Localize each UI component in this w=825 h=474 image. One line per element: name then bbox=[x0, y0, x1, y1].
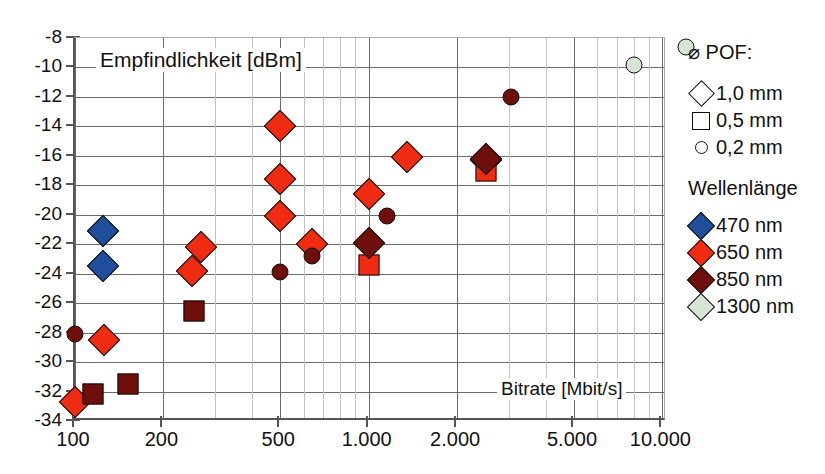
data-point-850nm-square bbox=[82, 384, 103, 405]
data-point-850nm-square bbox=[118, 374, 139, 395]
legend-wavelength-row: 850 nm bbox=[686, 266, 825, 293]
diamond-filled-icon bbox=[686, 270, 716, 290]
data-point-650nm-diamond bbox=[88, 324, 121, 357]
data-point-850nm-circle bbox=[67, 326, 84, 343]
gridline-vertical bbox=[252, 38, 253, 418]
chart-root: -8-10-12-14-16-18-20-22-24-26-28-30-32-3… bbox=[0, 0, 825, 474]
x-tick-label: 200 bbox=[116, 429, 206, 449]
data-point-1300nm-circle bbox=[625, 56, 642, 73]
data-point-850nm-circle bbox=[502, 88, 519, 105]
legend-wavelength-label: 1300 nm bbox=[716, 295, 794, 318]
data-point-650nm-diamond bbox=[391, 141, 424, 174]
x-tick-mark bbox=[277, 416, 279, 427]
data-point-470nm-diamond bbox=[87, 250, 120, 283]
data-point-850nm-circle bbox=[303, 248, 320, 265]
gridline-vertical bbox=[323, 38, 324, 418]
y-tick-label: -22 bbox=[0, 233, 62, 252]
x-tick-label: 2.000 bbox=[410, 429, 500, 449]
diamond-filled-icon bbox=[686, 216, 716, 236]
y-tick-label: -12 bbox=[0, 86, 62, 105]
legend-wavelength-label: 470 nm bbox=[716, 214, 783, 237]
x-tick-mark bbox=[366, 416, 368, 427]
gridline-vertical bbox=[340, 38, 341, 418]
y-tick-label: -14 bbox=[0, 115, 62, 134]
legend-pof-row: 0,5 mm bbox=[686, 107, 825, 134]
x-tick-label: 5.000 bbox=[527, 429, 617, 449]
gridline-vertical bbox=[574, 38, 575, 418]
gridline-vertical bbox=[457, 38, 458, 418]
x-tick-mark bbox=[454, 416, 456, 427]
data-point-470nm-diamond bbox=[87, 215, 120, 248]
x-tick-label: 10.000 bbox=[615, 429, 705, 449]
y-tick-label: -18 bbox=[0, 174, 62, 193]
x-tick-label: 500 bbox=[233, 429, 323, 449]
square-outline-icon bbox=[686, 112, 716, 130]
gridline-vertical bbox=[662, 38, 663, 418]
legend-pof-label: 0,2 mm bbox=[716, 136, 783, 159]
legend-wavelength-row: 1300 nm bbox=[686, 293, 825, 320]
x-tick-label: 100 bbox=[28, 429, 118, 449]
y-tick-label: -28 bbox=[0, 322, 62, 341]
legend: ⌀ POF: 1,0 mm0,5 mm0,2 mm Wellenlänge 47… bbox=[686, 40, 825, 320]
y-tick-label: -32 bbox=[0, 381, 62, 400]
x-axis-title: Bitrate [Mbit/s] bbox=[497, 378, 626, 400]
plot-area bbox=[73, 37, 665, 420]
legend-pof-group: 1,0 mm0,5 mm0,2 mm bbox=[686, 80, 825, 161]
diamond-filled-icon bbox=[686, 297, 716, 317]
x-tick-mark bbox=[72, 416, 74, 427]
x-tick-label: 1.000 bbox=[322, 429, 412, 449]
x-tick-mark bbox=[160, 416, 162, 427]
legend-wavelength-row: 470 nm bbox=[686, 212, 825, 239]
x-tick-mark bbox=[571, 416, 573, 427]
data-point-650nm-diamond bbox=[352, 178, 385, 211]
legend-pof-row: 1,0 mm bbox=[686, 80, 825, 107]
y-tick-label: -20 bbox=[0, 204, 62, 223]
legend-pof-label: 1,0 mm bbox=[716, 82, 783, 105]
legend-wavelength-label: 850 nm bbox=[716, 268, 783, 291]
legend-wavelength-label: 650 nm bbox=[716, 241, 783, 264]
gridline-vertical bbox=[634, 38, 635, 418]
y-axis-title: Empfindlichkeit [dBm] bbox=[96, 48, 306, 72]
data-point-850nm-circle bbox=[272, 264, 289, 281]
y-tick-label: -10 bbox=[0, 56, 62, 75]
data-point-850nm-circle bbox=[378, 208, 395, 225]
diamond-outline-icon bbox=[686, 84, 716, 103]
circle-outline-icon bbox=[686, 141, 716, 154]
legend-wavelength-group: 470 nm650 nm850 nm1300 nm bbox=[686, 212, 825, 320]
gridline-vertical bbox=[304, 38, 305, 418]
y-tick-label: -30 bbox=[0, 351, 62, 370]
legend-wavelength-title: Wellenlänge bbox=[688, 177, 825, 200]
data-point-650nm-diamond bbox=[264, 110, 297, 143]
legend-pof-row: 0,2 mm bbox=[686, 134, 825, 161]
gridline-vertical bbox=[649, 38, 650, 418]
legend-wavelength-row: 650 nm bbox=[686, 239, 825, 266]
legend-pof-label: 0,5 mm bbox=[716, 109, 783, 132]
gridline-vertical bbox=[163, 38, 164, 418]
data-point-850nm-square bbox=[184, 300, 205, 321]
diamond-filled-icon bbox=[686, 243, 716, 263]
data-point-650nm-diamond bbox=[264, 200, 297, 233]
x-tick-mark bbox=[659, 416, 661, 427]
gridline-vertical bbox=[75, 38, 76, 418]
y-tick-label: -8 bbox=[0, 27, 62, 46]
y-tick-label: -16 bbox=[0, 145, 62, 164]
y-tick-label: -24 bbox=[0, 263, 62, 282]
y-tick-label: -26 bbox=[0, 292, 62, 311]
legend-pof-title: ⌀ POF: bbox=[688, 40, 825, 64]
gridline-vertical bbox=[355, 38, 356, 418]
gridline-vertical bbox=[597, 38, 598, 418]
data-point-650nm-diamond bbox=[264, 163, 297, 196]
gridline-vertical bbox=[617, 38, 618, 418]
gridline-vertical bbox=[546, 38, 547, 418]
gridline-vertical bbox=[215, 38, 216, 418]
y-tick-label: -34 bbox=[0, 410, 62, 429]
